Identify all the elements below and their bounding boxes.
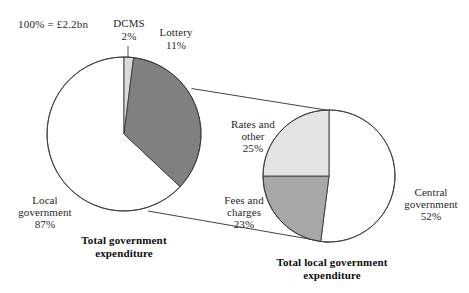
label-fees-and-charges-line2: charges	[208, 206, 280, 219]
label-local-government-name-line2: government	[2, 206, 88, 219]
label-rates-and-other-line2: other	[218, 130, 288, 143]
pie2-caption-line1: Total local government	[248, 256, 416, 269]
label-rates-and-other-value: 25%	[218, 142, 288, 155]
pie1-caption-line1: Total government	[56, 234, 192, 247]
label-fees-and-charges-value: 23%	[208, 218, 280, 231]
label-fees-and-charges-line1: Fees and	[208, 194, 280, 207]
label-lottery-name: Lottery	[150, 26, 202, 39]
label-central-government-value: 52%	[396, 210, 466, 223]
label-dcms-name: DCMS	[104, 17, 154, 30]
label-central-government-line1: Central	[396, 186, 466, 199]
pie-total-government-expenditure	[47, 57, 201, 211]
label-lottery-value: 11%	[150, 39, 202, 52]
pie2-caption-line2: expenditure	[248, 269, 416, 282]
total-value-note: 100% = £2.2bn	[18, 18, 88, 30]
label-central-government-line2: government	[396, 198, 466, 211]
label-rates-and-other-line1: Rates and	[218, 118, 288, 131]
label-local-government-value: 87%	[2, 218, 88, 231]
pie2-slice-central-government[interactable]	[321, 110, 395, 242]
label-local-government-name-line1: Local	[2, 194, 88, 207]
pie1-caption-line2: expenditure	[56, 247, 192, 260]
pie-chart-figure: 100% = £2.2bn DCMS 2% Lottery 11% Local …	[0, 0, 469, 293]
label-dcms-value: 2%	[104, 30, 154, 43]
